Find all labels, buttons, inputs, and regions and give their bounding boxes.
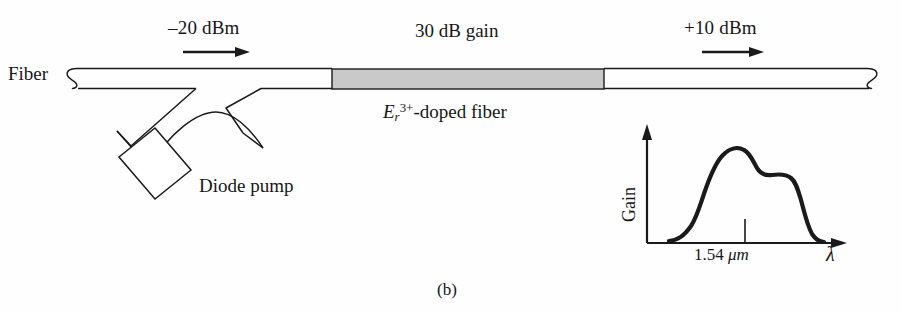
doped-fiber-rest: -doped fiber — [413, 101, 506, 122]
inset-y-axis-label: Gain — [620, 187, 638, 222]
doped-fiber-section — [332, 69, 604, 89]
inset-tick-value: 1.54 — [694, 245, 724, 264]
diode-pump-label: Diode pump — [199, 176, 293, 195]
doped-fiber-charge: 3+ — [400, 100, 414, 115]
diagram-vector-layer — [0, 0, 902, 312]
doped-fiber-element: E — [383, 101, 395, 122]
fiber-label: Fiber — [8, 64, 48, 83]
input-power-label: –20 dBm — [168, 18, 240, 37]
output-power-label: +10 dBm — [684, 18, 757, 37]
fiber-end-curl-right-icon — [866, 68, 877, 88]
fiber-end-curl-left-icon — [67, 68, 78, 88]
gain-value-label: 30 dB gain — [415, 21, 498, 40]
inset-tick-unit: μm — [728, 245, 749, 264]
gain-spectrum-curve — [669, 148, 824, 242]
doped-fiber-label: Er3+-doped fiber — [383, 102, 507, 124]
input-power-arrow-icon — [183, 47, 250, 57]
inset-tick-label-1540nm: 1.54 μm — [694, 246, 749, 263]
diode-pump-box — [119, 128, 191, 199]
fiber-amplifier-figure: Fiber –20 dBm 30 dB gain +10 dBm Er3+-do… — [0, 0, 902, 312]
inset-x-axis-label: λ — [826, 244, 835, 264]
gain-spectrum-inset — [642, 124, 847, 248]
figure-caption: (b) — [437, 281, 457, 298]
inset-y-axis-arrowhead-icon — [642, 124, 652, 140]
output-power-arrow-icon — [702, 47, 764, 57]
